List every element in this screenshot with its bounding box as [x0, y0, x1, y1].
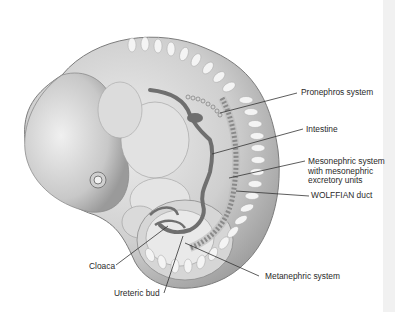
label-mesonephric-line-3: excretory units — [308, 176, 385, 186]
label-pronephros-system: Pronephros system — [301, 88, 373, 98]
label-cloaca: Cloaca — [89, 262, 115, 272]
label-metanephric-system: Metanephric system — [265, 272, 340, 282]
label-ureteric-bud: Ureteric bud — [114, 289, 160, 299]
label-mesonephric-system: Mesonephric system with mesonephric excr… — [308, 157, 385, 186]
label-wolffian-duct: WOLFFIAN duct — [311, 191, 372, 201]
label-intestine: Intestine — [306, 125, 338, 135]
